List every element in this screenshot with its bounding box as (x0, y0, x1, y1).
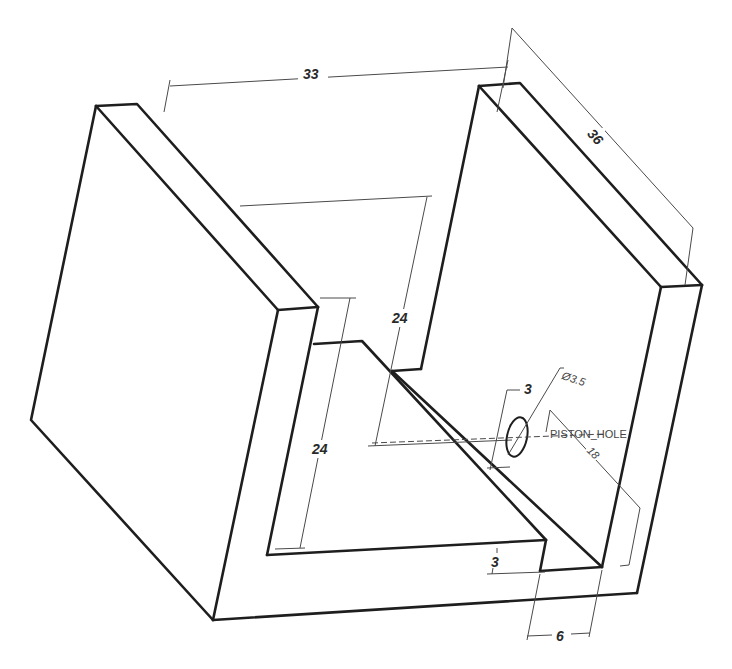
hole-diameter-label: Ø3.5 (560, 369, 588, 388)
right-wall (421, 83, 702, 593)
dimension-thickness-3: 3 (487, 548, 545, 574)
piston-hole-label: PISTON_HOLE (550, 428, 627, 440)
dimension-label-3-base: 3 (491, 554, 499, 570)
dimension-label-33: 33 (303, 66, 319, 82)
dimension-label-24-front: 24 (311, 441, 328, 457)
dimension-width-33: 33 (164, 60, 508, 112)
isometric-drawing: 33 36 24 24 3 Ø3.5 PISTON_HOLE (0, 0, 732, 669)
dimension-label-24-back: 24 (391, 310, 408, 326)
left-wall (31, 104, 318, 620)
dimension-slot-6: 6 (527, 570, 602, 644)
dimension-depth-36: 36 (503, 28, 693, 285)
dimension-label-6: 6 (556, 628, 564, 644)
dimension-height-24-front: 24 (275, 298, 356, 549)
dimension-height-24-back: 24 (240, 196, 512, 446)
dimension-label-3-hole: 3 (524, 381, 532, 397)
